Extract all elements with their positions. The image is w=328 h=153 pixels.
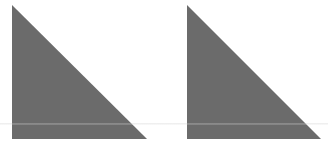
left-triangle [12,5,147,139]
right-triangle [187,5,321,139]
canvas [0,0,328,153]
shapes-drawing [0,0,328,153]
